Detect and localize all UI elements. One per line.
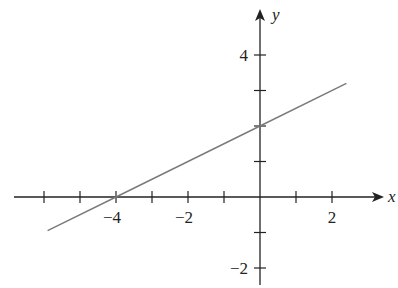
chart: x y −4−224−2 xyxy=(0,0,398,288)
y-tick-label: 4 xyxy=(240,46,249,65)
y-axis-label: y xyxy=(270,5,280,24)
x-tick-label: −4 xyxy=(103,208,122,227)
x-tick-label: 2 xyxy=(328,208,337,227)
data-line xyxy=(48,83,347,230)
coordinate-plot: x y −4−224−2 xyxy=(0,0,398,288)
y-tick-label: −2 xyxy=(230,259,248,278)
tick-labels: −4−224−2 xyxy=(103,46,336,278)
x-axis-label: x xyxy=(387,187,396,206)
x-tick-label: −2 xyxy=(175,208,193,227)
